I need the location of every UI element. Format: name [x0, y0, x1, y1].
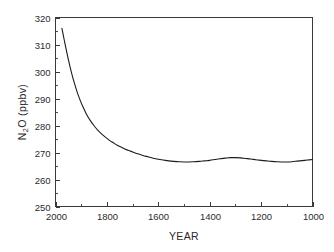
x-tick-label: 1200 [251, 211, 272, 222]
x-axis-title: YEAR [169, 230, 199, 242]
n2o-concentration-line-chart: 250260270280290300310320 200018001600140… [0, 0, 334, 252]
y-tick-label: 310 [35, 40, 51, 51]
y-tick-label: 320 [35, 13, 51, 24]
y-axis-title: N2O (ppbv) [16, 84, 30, 140]
x-tick-label: 2000 [46, 211, 67, 222]
y-tick-label: 280 [35, 121, 51, 132]
y-tick-label: 300 [35, 67, 51, 78]
y-tick-label: 270 [35, 148, 51, 159]
x-axis: 200018001600140012001000 [46, 202, 324, 222]
y-tick-label: 260 [35, 175, 51, 186]
x-tick-label: 1600 [148, 211, 169, 222]
x-tick-label: 1800 [97, 211, 118, 222]
plot-frame [56, 18, 313, 207]
y-axis: 250260270280290300310320 [35, 13, 60, 213]
chart-figure: 250260270280290300310320 200018001600140… [0, 0, 334, 252]
y-axis-title-pre: N [16, 132, 28, 140]
y-tick-label: 290 [35, 94, 51, 105]
x-tick-label: 1000 [303, 211, 324, 222]
data-series-n2o [62, 28, 313, 162]
y-axis-title-post: O (ppbv) [16, 84, 28, 128]
x-tick-label: 1400 [200, 211, 221, 222]
